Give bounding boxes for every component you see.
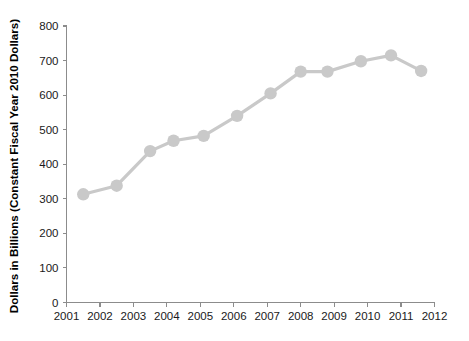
x-tick-label: 2006 <box>221 310 247 322</box>
data-point-marker <box>264 87 276 99</box>
data-point-marker <box>110 179 122 191</box>
y-axis: 0100200300400500600700800 <box>39 20 66 309</box>
y-tick-label: 500 <box>39 124 58 136</box>
line-chart: Dollars in Billions (Constant Fiscal Yea… <box>0 0 469 341</box>
x-tick-label: 2010 <box>355 310 381 322</box>
y-tick-label: 0 <box>52 297 58 309</box>
data-point-marker <box>321 65 333 77</box>
data-point-marker <box>144 145 156 157</box>
y-tick-group: 0100200300400500600700800 <box>39 20 66 309</box>
series-markers <box>77 49 427 200</box>
chart-figure: Dollars in Billions (Constant Fiscal Yea… <box>0 0 469 341</box>
x-tick-label: 2012 <box>422 310 448 322</box>
data-point-marker <box>77 188 89 200</box>
y-tick-label: 300 <box>39 193 58 205</box>
data-series-defense-spending <box>77 49 427 200</box>
x-tick-label: 2002 <box>87 310 113 322</box>
y-tick-label: 400 <box>39 158 58 170</box>
data-point-marker <box>385 49 397 61</box>
x-tick-label: 2005 <box>188 310 214 322</box>
x-tick-label: 2001 <box>54 310 80 322</box>
x-tick-group: 2001200220032004200520062007200820092010… <box>54 303 448 322</box>
data-point-marker <box>294 65 306 77</box>
data-point-marker <box>197 130 209 142</box>
x-tick-label: 2008 <box>288 310 314 322</box>
data-point-marker <box>167 135 179 147</box>
x-tick-label: 2007 <box>254 310 280 322</box>
x-axis: 2001200220032004200520062007200820092010… <box>54 303 448 322</box>
y-tick-label: 600 <box>39 89 58 101</box>
y-tick-label: 100 <box>39 262 58 274</box>
x-tick-label: 2011 <box>389 310 414 322</box>
data-point-marker <box>355 55 367 67</box>
y-tick-label: 200 <box>39 227 58 239</box>
y-tick-label: 700 <box>39 55 58 67</box>
x-tick-label: 2004 <box>154 310 180 322</box>
x-tick-label: 2003 <box>121 310 147 322</box>
y-axis-title-text: Dollars in Billions (Constant Fiscal Yea… <box>7 19 20 313</box>
data-point-marker <box>231 110 243 122</box>
x-tick-label: 2009 <box>321 310 347 322</box>
series-line-path <box>83 55 421 194</box>
y-axis-title: Dollars in Billions (Constant Fiscal Yea… <box>7 19 20 313</box>
y-tick-label: 800 <box>39 20 58 32</box>
data-point-marker <box>415 65 427 77</box>
